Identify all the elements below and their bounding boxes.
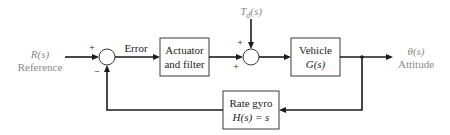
input-signal-label: R(s) <box>30 48 50 61</box>
block-diagram: R(s) Reference + − Error Actuator and fi… <box>0 0 450 135</box>
actuator-arrowhead-icon <box>236 54 243 60</box>
summing-junction-1 <box>99 49 115 65</box>
actuator-label-line1: Actuator <box>165 44 204 56</box>
output-signal-label: θ(s) <box>407 45 424 58</box>
output-name-label: Attitude <box>398 58 434 70</box>
gyro-input-arrowhead-icon <box>279 107 286 113</box>
rate-gyro-label-line1: Rate gyro <box>229 97 273 109</box>
sum1-plus-sign: + <box>89 42 95 53</box>
sum2-top-plus-sign: + <box>237 37 243 48</box>
rate-gyro-label-line2: H(s) = s <box>232 111 270 124</box>
sum1-minus-sign: − <box>94 66 100 77</box>
input-arrowhead-icon <box>92 54 99 60</box>
vehicle-label-line1: Vehicle <box>299 44 332 56</box>
error-label: Error <box>124 42 148 54</box>
vehicle-input-arrowhead-icon <box>284 54 291 60</box>
disturbance-arrowhead-icon <box>248 42 254 49</box>
error-arrowhead-icon <box>153 54 160 60</box>
input-name-label: Reference <box>18 61 63 73</box>
disturbance-label: Td(s) <box>240 5 262 20</box>
output-arrowhead-icon <box>386 54 393 60</box>
actuator-label-line2: and filter <box>164 58 204 70</box>
summing-junction-2 <box>243 49 259 65</box>
feedback-arrowhead-icon <box>104 65 110 72</box>
sum2-left-plus-sign: + <box>233 61 239 72</box>
vehicle-label-line2: G(s) <box>306 58 326 71</box>
feedback-line-to-sum1 <box>107 71 223 110</box>
